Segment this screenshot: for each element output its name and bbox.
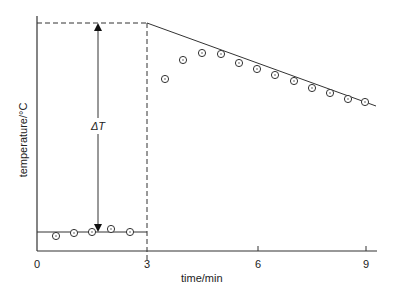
data-points [52,49,368,239]
y-axis-label: temperature/°C [17,103,29,178]
cooling-line [147,23,376,106]
x-axis-label: time/min [181,272,223,284]
delta-t-label: ΔT [90,120,106,132]
x-tick-label-0: 0 [34,258,40,270]
x-tick-label-9: 9 [363,258,369,270]
x-tick-label-6: 6 [255,258,261,270]
chart: 0 3 6 9 time/min temperature/°C ΔT [0,0,394,295]
arrow-up-icon [94,23,102,31]
